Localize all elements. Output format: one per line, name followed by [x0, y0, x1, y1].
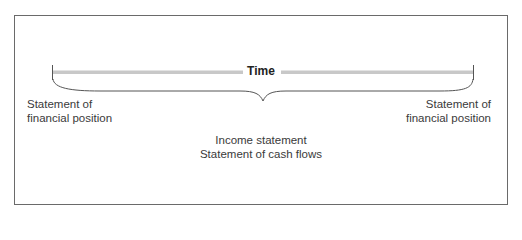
start-statement-label: Statement of financial position [27, 97, 112, 125]
start-label-line1: Statement of [27, 97, 112, 111]
period-label-line1: Income statement [161, 133, 361, 147]
period-label-line2: Statement of cash flows [161, 147, 361, 161]
end-label-line2: financial position [406, 111, 491, 125]
start-label-line2: financial position [27, 111, 112, 125]
period-statements-label: Income statement Statement of cash flows [161, 133, 361, 161]
end-statement-label: Statement of financial position [406, 97, 491, 125]
timeline-bar-right [281, 71, 473, 75]
end-label-line1: Statement of [406, 97, 491, 111]
timeline-bar-left [53, 71, 243, 75]
timeline-label: Time [243, 64, 279, 78]
